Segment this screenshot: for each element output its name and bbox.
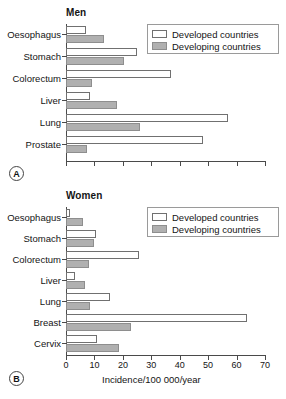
bar-women-oesophagus-developed <box>66 209 70 217</box>
legend-swatch-developing-icon <box>152 42 167 50</box>
bar-men-liver-developed <box>66 92 90 100</box>
category-label-cervix: Cervix <box>34 338 61 349</box>
x-tick-50 <box>208 162 209 166</box>
bar-women-oesophagus-developing <box>66 218 83 226</box>
legend-swatch-developed-icon <box>152 213 167 221</box>
legend-swatch-developing-icon <box>152 225 167 233</box>
legend-label-developing: Developing countries <box>172 41 261 52</box>
category-label-liver: Liver <box>40 95 61 106</box>
bar-men-prostate-developing <box>66 145 87 153</box>
bar-women-liver-developing <box>66 281 85 289</box>
category-label-prostate: Prostate <box>26 139 61 150</box>
x-tick-40 <box>180 162 181 166</box>
panel-women: Women B 0 10 20 30 40 50 60 70 Incidence… <box>0 186 286 399</box>
category-label-stomach: Stomach <box>24 233 62 244</box>
bar-women-colorectum-developing <box>66 260 89 268</box>
legend-label-developing: Developing countries <box>172 224 261 235</box>
category-label-colorectum: Colorectum <box>12 254 61 265</box>
bar-women-cervix-developed <box>66 335 97 343</box>
x-tick-label-60: 60 <box>225 360 249 370</box>
bar-women-breast-developing <box>66 323 131 331</box>
bar-women-breast-developed <box>66 314 247 322</box>
category-label-oesophagus: Oesophagus <box>7 29 61 40</box>
x-tick-label-70: 70 <box>253 360 277 370</box>
x-tick-20 <box>123 162 124 166</box>
bar-women-stomach-developing <box>66 239 94 247</box>
legend-row-developing: Developing countries <box>152 223 272 235</box>
bar-men-liver-developing <box>66 101 117 109</box>
x-tick-60 <box>237 162 238 166</box>
category-label-breast: Breast <box>34 317 61 328</box>
legend-row-developed: Developed countries <box>152 211 272 223</box>
bar-women-cervix-developing <box>66 344 119 352</box>
category-label-lung: Lung <box>40 117 61 128</box>
legend-women: Developed countries Developing countries <box>147 207 279 237</box>
bar-men-lung-developing <box>66 123 140 131</box>
panel-tag-b: B <box>9 371 24 386</box>
x-tick-label-10: 10 <box>82 360 106 370</box>
bar-men-stomach-developed <box>66 48 137 56</box>
bar-men-lung-developed <box>66 114 228 122</box>
category-label-colorectum: Colorectum <box>12 73 61 84</box>
x-tick-label-50: 50 <box>196 360 220 370</box>
x-tick-label-40: 40 <box>168 360 192 370</box>
x-axis-title: Incidence/100 000/year <box>102 374 201 385</box>
legend-row-developing: Developing countries <box>152 40 272 52</box>
bar-men-colorectum-developed <box>66 70 171 78</box>
panel-men-title: Men <box>66 7 86 18</box>
bar-women-colorectum-developed <box>66 251 139 259</box>
x-tick-label-20: 20 <box>111 360 135 370</box>
category-label-liver: Liver <box>40 275 61 286</box>
x-tick-0 <box>66 162 67 166</box>
bar-women-liver-developed <box>66 272 75 280</box>
legend-row-developed: Developed countries <box>152 28 272 40</box>
category-label-stomach: Stomach <box>24 51 62 62</box>
legend-men: Developed countries Developing countries <box>147 24 279 54</box>
cancer-incidence-figure: Men A Oesophagus Stomach <box>0 0 286 399</box>
bar-women-stomach-developed <box>66 230 96 238</box>
bar-men-oesophagus-developing <box>66 35 104 43</box>
bar-men-oesophagus-developed <box>66 26 86 34</box>
legend-swatch-developed-icon <box>152 30 167 38</box>
panel-men: Men A Oesophagus Stomach <box>0 0 286 196</box>
x-tick-label-30: 30 <box>139 360 163 370</box>
bar-women-lung-developing <box>66 302 90 310</box>
x-tick-70 <box>265 162 266 166</box>
x-tick-10 <box>94 162 95 166</box>
bar-women-lung-developed <box>66 293 110 301</box>
legend-label-developed: Developed countries <box>172 29 259 40</box>
category-label-oesophagus: Oesophagus <box>7 212 61 223</box>
x-tick-30 <box>151 162 152 166</box>
panel-women-title: Women <box>66 190 102 201</box>
category-label-lung: Lung <box>40 296 61 307</box>
bar-men-stomach-developing <box>66 57 124 65</box>
panel-tag-a: A <box>9 166 24 181</box>
bar-men-colorectum-developing <box>66 79 92 87</box>
legend-label-developed: Developed countries <box>172 212 259 223</box>
bar-men-prostate-developed <box>66 136 203 144</box>
x-tick-label-0: 0 <box>54 360 78 370</box>
